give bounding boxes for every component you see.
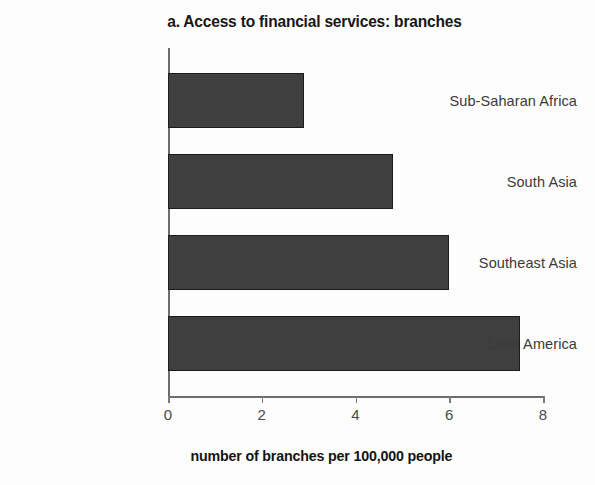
x-tick-6 bbox=[449, 396, 451, 403]
chart-title: a. Access to financial services: branche… bbox=[18, 12, 577, 31]
x-tick-label-0: 0 bbox=[148, 406, 188, 423]
y-axis-label-sub-saharan-africa: Sub-Saharan Africa bbox=[417, 93, 577, 109]
x-axis-title: number of branches per 100,000 people bbox=[24, 447, 571, 465]
x-tick-label-8: 8 bbox=[523, 406, 563, 423]
chart-figure: a. Access to financial services: branche… bbox=[0, 0, 595, 485]
x-tick-4 bbox=[356, 396, 358, 403]
bar-sub-saharan-africa[interactable] bbox=[168, 73, 304, 128]
x-tick-8 bbox=[543, 396, 545, 403]
bar-south-asia[interactable] bbox=[168, 154, 393, 209]
x-tick-2 bbox=[262, 396, 264, 403]
y-axis-label-southeast-asia: Southeast Asia bbox=[417, 255, 577, 271]
bar-southeast-asia[interactable] bbox=[168, 235, 449, 290]
y-axis-label-latin-america: Latin America bbox=[417, 336, 577, 352]
x-tick-label-6: 6 bbox=[429, 406, 469, 423]
y-axis-label-south-asia: South Asia bbox=[417, 174, 577, 190]
x-tick-0 bbox=[168, 396, 170, 403]
x-tick-label-2: 2 bbox=[242, 406, 282, 423]
x-tick-label-4: 4 bbox=[336, 406, 376, 423]
